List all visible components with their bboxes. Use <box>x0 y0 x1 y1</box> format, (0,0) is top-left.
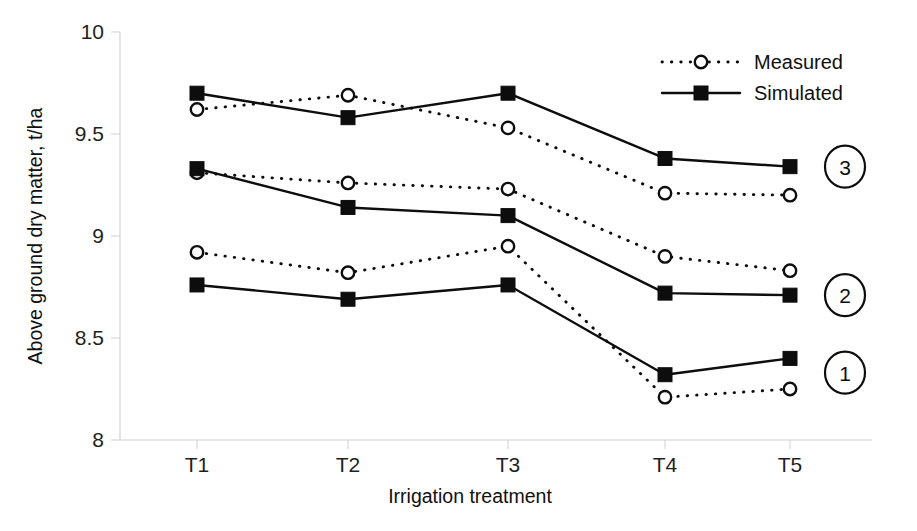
marker-measured-group-1-T1 <box>191 246 203 258</box>
line-chart: 88.599.510 T1T2T3T4T5 321 MeasuredSimula… <box>0 0 917 531</box>
marker-measured-group-1-T4 <box>659 391 671 403</box>
marker-measured-group-3-T3 <box>502 122 514 134</box>
marker-measured-group-2-T5 <box>784 264 796 276</box>
marker-simulated-group-1-T5 <box>783 351 797 365</box>
marker-simulated-group-1-T3 <box>501 278 515 292</box>
x-tick-label-T4: T4 <box>653 453 678 476</box>
x-tick-label-T1: T1 <box>185 453 210 476</box>
marker-simulated-group-2-T4 <box>658 286 672 300</box>
y-tick-label-9: 9 <box>92 224 104 247</box>
marker-simulated-group-1-T1 <box>190 278 204 292</box>
marker-measured-group-2-T2 <box>342 177 354 189</box>
marker-simulated-group-2-T2 <box>341 200 355 214</box>
marker-simulated-group-3-T1 <box>190 86 204 100</box>
marker-measured-group-1-T2 <box>342 267 354 279</box>
chart-background <box>0 0 917 531</box>
group-badge-label-1: 1 <box>839 362 851 385</box>
legend-label-measured: Measured <box>754 51 843 73</box>
marker-measured-group-3-T4 <box>659 187 671 199</box>
y-tick-label-8.5: 8.5 <box>75 326 104 349</box>
marker-simulated-group-1-T4 <box>658 368 672 382</box>
y-axis-title: Above ground dry matter, t/ha <box>24 107 46 364</box>
marker-simulated-group-2-T5 <box>783 288 797 302</box>
marker-measured-group-1-T3 <box>502 240 514 252</box>
group-badge-label-3: 3 <box>839 156 851 179</box>
marker-simulated-group-2-T3 <box>501 209 515 223</box>
x-tick-label-T3: T3 <box>496 453 521 476</box>
marker-simulated-group-2-T1 <box>190 162 204 176</box>
x-tick-label-T5: T5 <box>778 453 803 476</box>
y-tick-label-9.5: 9.5 <box>75 122 104 145</box>
marker-measured-group-3-T2 <box>342 89 354 101</box>
x-tick-label-T2: T2 <box>336 453 361 476</box>
chart-container: 88.599.510 T1T2T3T4T5 321 MeasuredSimula… <box>0 0 917 531</box>
y-tick-label-8: 8 <box>92 428 104 451</box>
group-badge-label-2: 2 <box>839 284 851 307</box>
marker-simulated-group-3-T2 <box>341 111 355 125</box>
marker-simulated-group-3-T4 <box>658 151 672 165</box>
legend-label-simulated: Simulated <box>754 82 843 104</box>
marker-measured-group-3-T5 <box>784 189 796 201</box>
marker-measured-group-3-T1 <box>191 103 203 115</box>
x-axis-title: Irrigation treatment <box>388 485 552 507</box>
marker-simulated-group-3-T5 <box>783 160 797 174</box>
legend-marker-measured <box>695 56 707 68</box>
marker-simulated-group-3-T3 <box>501 86 515 100</box>
marker-measured-group-2-T3 <box>502 183 514 195</box>
legend-marker-simulated <box>694 86 708 100</box>
marker-simulated-group-1-T2 <box>341 292 355 306</box>
marker-measured-group-1-T5 <box>784 383 796 395</box>
marker-measured-group-2-T4 <box>659 250 671 262</box>
y-tick-label-10: 10 <box>81 20 104 43</box>
